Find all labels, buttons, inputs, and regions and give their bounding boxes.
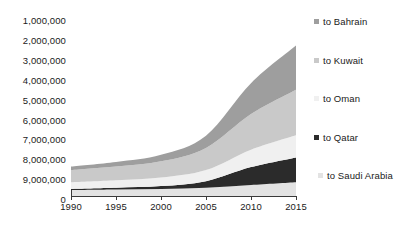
legend-item[interactable]: to Saudi Arabia — [318, 170, 393, 181]
chart-legend: to Bahrainto Kuwaitto Omanto Qatarto Sau… — [310, 0, 413, 200]
y-axis-tick-label: 6,000,000 — [23, 116, 66, 126]
y-axis-tick-label: 2,000,000 — [23, 36, 66, 46]
x-axis-tick-mark — [251, 197, 252, 200]
y-axis-tick-label: 3,000,000 — [23, 56, 66, 66]
y-axis-tick-label: 8,000,000 — [23, 155, 66, 165]
chart-container: 1,000,0002,000,0003,000,0004,000,0005,00… — [0, 0, 413, 230]
legend-label: to Qatar — [323, 132, 358, 143]
y-axis-tick-label: 4,000,000 — [23, 76, 66, 86]
x-axis-tick-mark — [161, 197, 162, 200]
y-axis-tick-label: 7,000,000 — [23, 135, 66, 145]
legend-swatch-icon — [314, 19, 319, 24]
legend-item[interactable]: to Kuwait — [314, 55, 363, 66]
x-axis-tick-label: 2015 — [285, 201, 307, 212]
x-axis-tick-mark — [71, 197, 72, 200]
legend-item[interactable]: to Qatar — [314, 132, 358, 143]
y-axis-tick-label: 9,000,000 — [23, 175, 66, 185]
legend-swatch-icon — [314, 135, 319, 140]
x-axis-tick-label: 2000 — [150, 201, 172, 212]
legend-item[interactable]: to Oman — [314, 93, 360, 104]
legend-item[interactable]: to Bahrain — [314, 16, 367, 27]
legend-label: to Kuwait — [323, 55, 363, 66]
plot-area — [71, 8, 296, 196]
x-axis-tick-label: 1990 — [60, 201, 82, 212]
x-axis-tick-mark — [116, 197, 117, 200]
stacked-area-svg — [71, 8, 296, 196]
legend-swatch-icon — [318, 173, 323, 178]
x-axis-tick-label: 2005 — [195, 201, 217, 212]
y-axis-labels: 1,000,0002,000,0003,000,0004,000,0005,00… — [0, 0, 70, 205]
x-axis-labels: 199019952000200520102015 — [0, 201, 330, 217]
y-axis-tick-label: 1,000,000 — [23, 16, 66, 26]
x-axis-tick-label: 1995 — [105, 201, 127, 212]
x-axis-tick-mark — [206, 197, 207, 200]
x-axis-line — [71, 196, 297, 197]
legend-label: to Saudi Arabia — [327, 170, 393, 181]
legend-swatch-icon — [314, 96, 319, 101]
x-axis-tick-label: 2010 — [240, 201, 262, 212]
x-axis-tick-mark — [296, 197, 297, 200]
legend-swatch-icon — [314, 58, 319, 63]
y-axis-tick-label: 5,000,000 — [23, 96, 66, 106]
legend-label: to Oman — [323, 93, 360, 104]
legend-label: to Bahrain — [323, 16, 367, 27]
